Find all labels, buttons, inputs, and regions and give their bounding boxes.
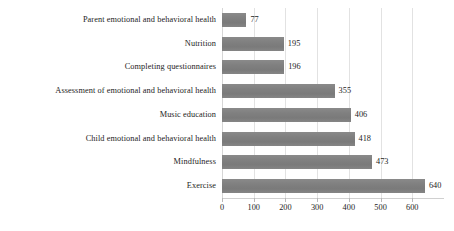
bar-value-label: 418 — [359, 134, 371, 144]
category-label: Nutrition — [0, 39, 216, 49]
bar-value-label: 640 — [429, 181, 441, 191]
bar — [222, 155, 372, 169]
bar-group: 640 — [222, 179, 441, 193]
bar-row: Nutrition195 — [0, 32, 454, 56]
bar-group: 196 — [222, 60, 301, 74]
bar — [222, 37, 284, 51]
bar-value-label: 196 — [288, 62, 300, 72]
category-label: Parent emotional and behavioral health — [0, 15, 216, 25]
bar-group: 77 — [222, 13, 259, 27]
bar-row: Child emotional and behavioral health418 — [0, 127, 454, 151]
bar-row: Assessment of emotional and behavioral h… — [0, 79, 454, 103]
bar-value-label: 473 — [376, 157, 388, 167]
bar-row: Parent emotional and behavioral health77 — [0, 8, 454, 32]
bar-group: 195 — [222, 37, 300, 51]
bar-group: 418 — [222, 132, 371, 146]
bar — [222, 179, 425, 193]
category-label: Child emotional and behavioral health — [0, 134, 216, 144]
category-label: Music education — [0, 110, 216, 120]
bar-value-label: 77 — [250, 15, 258, 25]
bar — [222, 132, 355, 146]
bar-group: 355 — [222, 84, 351, 98]
x-tick-label: 200 — [279, 202, 291, 214]
category-label: Completing questionnaires — [0, 62, 216, 72]
x-tick-label: 600 — [406, 202, 418, 214]
bar-row: Completing questionnaires196 — [0, 56, 454, 80]
bar-row: Exercise640 — [0, 174, 454, 198]
x-tick-label: 500 — [374, 202, 386, 214]
category-label: Exercise — [0, 181, 216, 191]
bar — [222, 84, 335, 98]
bar-chart: Parent emotional and behavioral health77… — [0, 0, 454, 231]
bar-value-label: 195 — [288, 39, 300, 49]
x-tick-label: 100 — [247, 202, 259, 214]
bar-row: Music education406 — [0, 103, 454, 127]
bar-group: 473 — [222, 155, 388, 169]
bar — [222, 13, 246, 27]
x-axis-tick-labels: 0100200300400500600 — [222, 202, 444, 216]
bar — [222, 108, 351, 122]
bar-row: Mindfulness473 — [0, 151, 454, 175]
category-label: Mindfulness — [0, 157, 216, 167]
x-tick-label: 400 — [343, 202, 355, 214]
category-label: Assessment of emotional and behavioral h… — [0, 86, 216, 96]
bar-value-label: 355 — [339, 86, 351, 96]
bar-group: 406 — [222, 108, 367, 122]
bar-rows: Parent emotional and behavioral health77… — [0, 8, 454, 198]
bar — [222, 60, 284, 74]
bar-value-label: 406 — [355, 110, 367, 120]
x-tick-label: 0 — [220, 202, 224, 214]
x-tick-label: 300 — [311, 202, 323, 214]
